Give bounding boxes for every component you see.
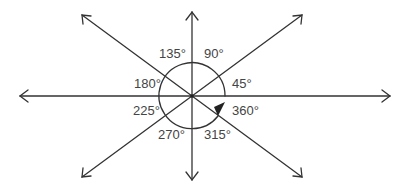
label-270: 270°: [158, 128, 185, 141]
label-360: 360°: [232, 104, 259, 117]
label-180: 180°: [134, 77, 161, 90]
center-point: [190, 94, 194, 98]
label-45: 45°: [232, 77, 252, 90]
label-135: 135°: [159, 47, 186, 60]
angle-diagram: [0, 0, 400, 188]
label-90: 90°: [204, 47, 224, 60]
label-225: 225°: [133, 104, 160, 117]
label-315: 315°: [204, 128, 231, 141]
